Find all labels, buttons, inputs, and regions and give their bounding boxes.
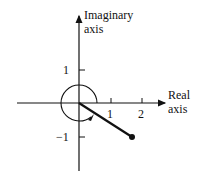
imaginary-axis-label: Imaginary <box>84 8 133 22</box>
real-axis-label: Real <box>168 88 191 102</box>
vector-endpoint <box>129 134 135 140</box>
real-axis-label-2: axis <box>168 102 188 116</box>
x-tick-label-2: 2 <box>138 107 144 121</box>
complex-plane-diagram: 1 2 1 −1 Imaginary axis Real axis <box>0 0 201 179</box>
imaginary-axis-label-2: axis <box>84 22 104 36</box>
angle-arrowhead-icon <box>88 114 94 121</box>
y-tick-label-neg1: −1 <box>56 130 69 144</box>
y-tick-label-1: 1 <box>63 63 69 77</box>
x-tick-label-1: 1 <box>107 107 113 121</box>
